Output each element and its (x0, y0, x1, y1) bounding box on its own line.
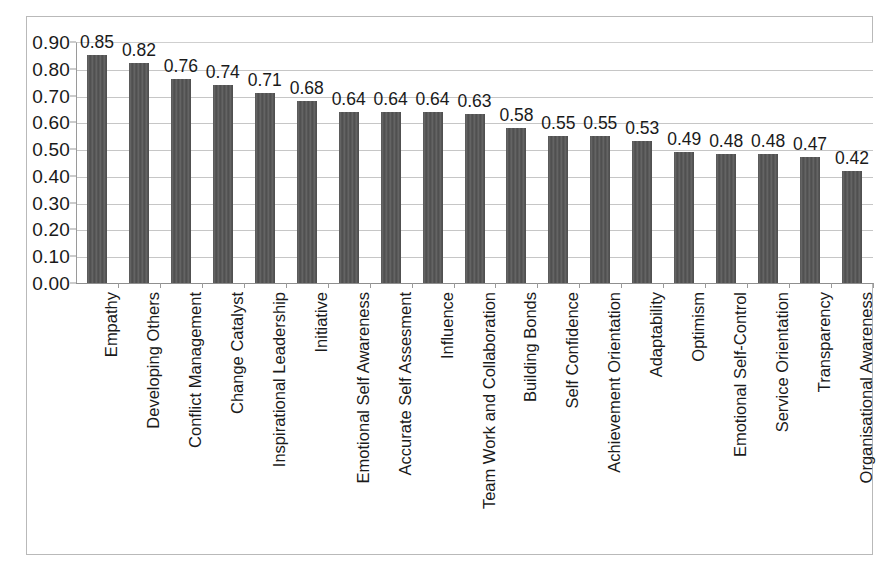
bar (423, 112, 443, 283)
x-axis-category-label: Emotional Self-Control (732, 292, 749, 457)
x-axis-category-label: Inspirational Leadership (271, 292, 288, 467)
bar (213, 85, 233, 283)
bar (632, 141, 652, 283)
bar-value-label: 0.82 (112, 42, 166, 60)
y-axis-tick-label: 0.70 (8, 86, 70, 105)
x-axis-tick-mark (705, 283, 706, 288)
y-axis-tick-label: 0.20 (8, 220, 70, 239)
x-axis-category-label: Organisational Awareness (858, 292, 875, 483)
x-axis-tick-mark (873, 283, 874, 288)
x-axis-tick-mark (789, 283, 790, 288)
x-axis-category-label: Building Bonds (522, 292, 539, 402)
y-axis-tick-label: 0.60 (8, 113, 70, 132)
bar (171, 79, 191, 283)
bar (842, 171, 862, 283)
bar (129, 63, 149, 283)
y-axis-tick-label: 0.80 (8, 59, 70, 78)
x-axis-tick-mark (118, 283, 119, 288)
bar (800, 157, 820, 283)
x-axis-category-label: Influence (439, 292, 456, 359)
x-axis-category-label: Accurate Self Assesment (397, 292, 414, 475)
x-axis-category-label: Emotional Self Awareness (355, 292, 372, 483)
chart-figure: 0.900.800.700.600.500.400.300.200.100.00… (0, 0, 892, 580)
x-axis-category-label: Transparency (816, 292, 833, 392)
x-axis-category-label: Conflict Management (187, 292, 204, 448)
y-axis-tick-label: 0.00 (8, 274, 70, 293)
bar (87, 55, 107, 283)
x-axis-category-label: Change Catalyst (229, 292, 246, 414)
x-axis-tick-mark (370, 283, 371, 288)
bar (590, 136, 610, 283)
x-axis-tick-mark (831, 283, 832, 288)
x-axis-category-label: Initiative (313, 292, 330, 353)
y-axis-tick-label: 0.30 (8, 193, 70, 212)
x-axis-tick-mark (244, 283, 245, 288)
x-axis-category-label: Empathy (103, 292, 120, 357)
bar (506, 128, 526, 283)
x-axis-category-label: Team Work and Collaboration (481, 292, 498, 509)
x-axis-tick-mark (328, 283, 329, 288)
x-axis-category-label: Adaptability (648, 292, 665, 377)
x-axis-tick-mark (412, 283, 413, 288)
bar (339, 112, 359, 283)
x-axis-tick-mark (537, 283, 538, 288)
bar (674, 152, 694, 283)
x-axis-tick-mark (579, 283, 580, 288)
x-axis-tick-mark (747, 283, 748, 288)
x-axis-category-label: Optimism (690, 292, 707, 362)
x-axis-tick-mark (160, 283, 161, 288)
bar-value-label: 0.42 (825, 150, 879, 168)
y-axis-tick-label: 0.90 (8, 33, 70, 52)
x-axis-tick-mark (202, 283, 203, 288)
y-axis-tick-label: 0.40 (8, 166, 70, 185)
bar (465, 114, 485, 283)
y-axis-tick-label: 0.10 (8, 247, 70, 266)
x-axis-category-label: Self Confidence (564, 292, 581, 409)
bar (381, 112, 401, 283)
bar (548, 136, 568, 283)
x-axis-category-label: Achievement Orientation (606, 292, 623, 473)
x-axis-tick-mark (663, 283, 664, 288)
x-axis-tick-mark (621, 283, 622, 288)
x-axis-tick-mark (286, 283, 287, 288)
bar (758, 154, 778, 283)
x-axis-tick-mark (495, 283, 496, 288)
x-axis-category-label: Developing Others (145, 292, 162, 429)
y-axis: 0.900.800.700.600.500.400.300.200.100.00 (0, 0, 70, 580)
bar (255, 93, 275, 283)
bar (716, 154, 736, 283)
y-axis-tick-label: 0.50 (8, 140, 70, 159)
bar (297, 101, 317, 283)
x-axis-category-label: Service Orientation (774, 292, 791, 432)
x-axis-tick-mark (454, 283, 455, 288)
x-axis-line (76, 283, 873, 284)
